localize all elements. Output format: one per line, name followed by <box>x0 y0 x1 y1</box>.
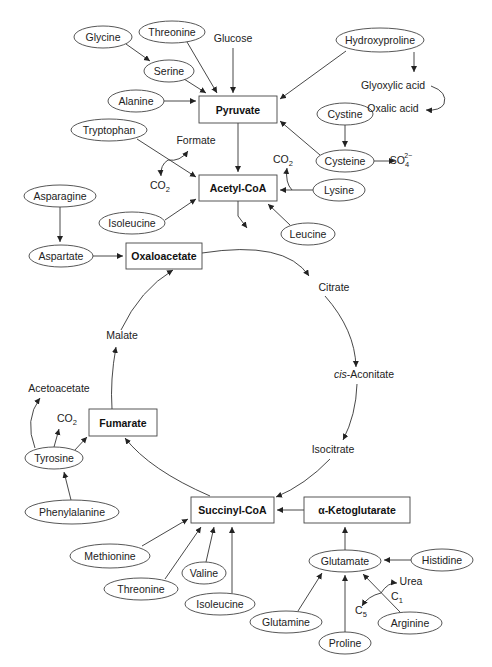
amino-acid-label: Isoleucine <box>108 217 155 229</box>
amino-acid-label: Proline <box>329 637 362 649</box>
label-co2-tyrosine: CO2 <box>57 412 77 427</box>
amino-acid-label: Phenylalanine <box>39 506 105 518</box>
label-sulfate: SO42− <box>390 152 412 169</box>
amino-acid-tyrosine: Tyrosine <box>25 447 83 469</box>
amino-acid-label: Threonine <box>148 26 195 38</box>
amino-acid-label: Cystine <box>327 108 362 120</box>
amino-acid-threonine-top: Threonine <box>139 21 205 43</box>
amino-acid-label: Leucine <box>290 228 327 240</box>
amino-acid-label: Cysteine <box>325 155 366 167</box>
label-glyoxylic-acid: Glyoxylic acid <box>361 79 425 91</box>
node-succinylcoa: Succinyl-CoA <box>191 497 274 523</box>
amino-acid-threonine-bottom: Threonine <box>104 578 178 600</box>
node-acetylcoa: Acetyl-CoA <box>199 175 277 201</box>
label-oxalic-acid: Oxalic acid <box>367 102 419 114</box>
amino-acid-label: Methionine <box>84 550 136 562</box>
amino-acid-label: Histidine <box>422 554 462 566</box>
amino-acid-label: Asparagine <box>33 190 86 202</box>
node-pyruvate: Pyruvate <box>199 96 277 123</box>
amino-acid-label: Hydroxyproline <box>345 34 415 46</box>
amino-acid-glycine: Glycine <box>74 26 132 48</box>
label-citrate: Citrate <box>319 281 350 293</box>
amino-acid-label: Aspartate <box>39 250 84 262</box>
label-co2-lysine: CO2 <box>273 153 293 168</box>
amino-acid-arginine: Arginine <box>378 612 442 634</box>
node-label: Fumarate <box>99 417 146 429</box>
label-malate: Malate <box>106 329 138 341</box>
amino-acid-label: Serine <box>154 65 185 77</box>
amino-acid-isoleucine-bottom: Isoleucine <box>185 593 255 615</box>
amino-acid-alanine: Alanine <box>108 90 164 112</box>
amino-acid-leucine: Leucine <box>281 223 335 245</box>
amino-acid-tryptophan: Tryptophan <box>71 119 147 141</box>
amino-acid-label: Alanine <box>118 95 153 107</box>
label-urea: Urea <box>400 575 423 587</box>
amino-acid-proline: Proline <box>319 632 371 654</box>
amino-acid-phenylalanine: Phenylalanine <box>25 500 119 524</box>
label-co2-tryptophan: CO2 <box>150 179 170 194</box>
amino-acid-cysteine: Cysteine <box>316 150 374 172</box>
metabolic-pathway-diagram: PyruvateAcetyl-CoAOxaloacetateFumarateSu… <box>0 0 492 667</box>
label-glucose: Glucose <box>214 32 253 44</box>
label-isocitrate: Isocitrate <box>312 443 355 455</box>
node-label: Oxaloacetate <box>131 250 197 262</box>
amino-acid-label: Glutamate <box>321 555 370 567</box>
amino-acid-histidine: Histidine <box>411 549 473 571</box>
label-cis-aconitate: cis-Aconitate <box>334 368 394 380</box>
node-label: Pyruvate <box>216 104 261 116</box>
amino-acid-hydroxyproline: Hydroxyproline <box>336 28 424 52</box>
node-oxaloacetate: Oxaloacetate <box>126 243 202 269</box>
amino-acid-label: Lysine <box>324 184 354 196</box>
amino-acid-label: Glycine <box>85 31 120 43</box>
label-c1: C1 <box>391 590 403 605</box>
node-label: α-Ketoglutarate <box>318 504 396 516</box>
node-label: Acetyl-CoA <box>210 182 267 194</box>
amino-acid-label: Threonine <box>117 583 164 595</box>
amino-acid-methionine: Methionine <box>70 544 150 568</box>
amino-acid-cystine: Cystine <box>317 103 373 125</box>
amino-acid-valine: Valine <box>182 562 226 584</box>
label-acetoacetate: Acetoacetate <box>28 382 89 394</box>
amino-acid-label: Isoleucine <box>196 598 243 610</box>
amino-acid-label: Glutamine <box>262 616 310 628</box>
amino-acid-isoleucine-top: Isoleucine <box>99 212 165 234</box>
node-label: Succinyl-CoA <box>198 504 267 516</box>
amino-acid-serine: Serine <box>144 60 194 82</box>
amino-acid-lysine: Lysine <box>313 179 365 201</box>
amino-acid-asparagine: Asparagine <box>24 185 96 207</box>
label-c5: C5 <box>355 604 367 619</box>
amino-acid-glutamate: Glutamate <box>309 550 381 572</box>
amino-acid-label: Tryptophan <box>83 124 136 136</box>
amino-acid-label: Valine <box>190 567 219 579</box>
amino-acid-label: Arginine <box>391 617 430 629</box>
amino-acid-aspartate: Aspartate <box>29 245 93 267</box>
amino-acid-label: Tyrosine <box>34 452 74 464</box>
node-akg: α-Ketoglutarate <box>304 497 410 523</box>
node-fumarate: Fumarate <box>89 409 157 436</box>
label-formate: Formate <box>176 134 215 146</box>
amino-acid-glutamine: Glutamine <box>250 611 322 633</box>
